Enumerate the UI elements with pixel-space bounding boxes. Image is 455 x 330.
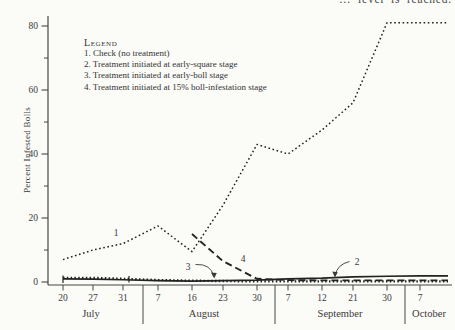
figure: … level is reached. Percent Infested Bol…	[0, 0, 455, 330]
y-axis-ticks: 020406080	[29, 21, 49, 287]
x-date-label: 20	[58, 293, 68, 303]
curve-label-arrow	[196, 264, 214, 276]
series-line-1	[63, 23, 448, 260]
month-label: September	[318, 308, 363, 319]
x-date-label: 12	[317, 293, 327, 303]
series-line-4	[192, 234, 448, 280]
x-axis-ticks: 202731716233071221307	[58, 285, 422, 303]
x-date-label: 16	[187, 293, 197, 303]
y-tick-label: 40	[29, 149, 39, 159]
x-date-label: 7	[418, 293, 423, 303]
x-date-label: 30	[382, 293, 392, 303]
month-label: July	[82, 308, 100, 319]
x-date-label: 31	[118, 293, 128, 303]
curve-label-c2: 2	[355, 257, 360, 267]
curve-label-arrowhead	[211, 273, 217, 279]
month-label: October	[412, 308, 446, 319]
data-series	[63, 23, 448, 282]
curve-label-arrow	[335, 262, 349, 276]
curve-label-c4: 4	[241, 254, 246, 264]
curve-annotations: 1432	[114, 228, 360, 279]
y-tick-label: 60	[29, 85, 39, 95]
curve-label-c3: 3	[186, 262, 191, 272]
x-date-label: 21	[348, 293, 358, 303]
x-date-label: 30	[252, 293, 262, 303]
month-labels: JulyAugustSeptemberOctober	[82, 285, 446, 324]
x-date-label: 27	[88, 293, 98, 303]
y-tick-label: 20	[29, 213, 39, 223]
chart-canvas: 020406080 202731716233071221307 JulyAugu…	[0, 0, 455, 330]
y-tick-label: 80	[29, 21, 39, 31]
y-tick-label: 0	[33, 277, 38, 287]
curve-label-c1: 1	[114, 228, 119, 238]
x-date-label: 7	[156, 293, 161, 303]
month-label: August	[189, 308, 219, 319]
x-date-label: 7	[286, 293, 291, 303]
x-date-label: 23	[218, 293, 228, 303]
